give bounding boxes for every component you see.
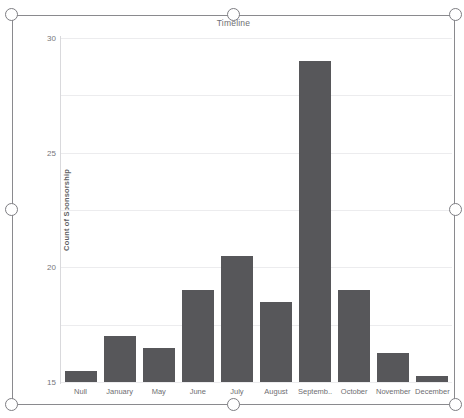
bar-series: NullJanuaryMayJuneJulyAugustSeptemb..Oct…: [61, 38, 452, 382]
x-tick-label: October: [341, 387, 368, 396]
x-tick-label: Null: [74, 387, 87, 396]
bar-slot: Null: [61, 38, 100, 382]
bar[interactable]: [221, 256, 253, 382]
bar[interactable]: [104, 336, 136, 382]
handle-top-right[interactable]: [449, 8, 462, 21]
handle-middle-left[interactable]: [5, 203, 18, 216]
y-tick-label-30: 30: [47, 34, 56, 43]
x-tick-label: July: [230, 387, 243, 396]
bar[interactable]: [338, 290, 370, 382]
bar-slot: June: [178, 38, 217, 382]
x-tick-label: June: [190, 387, 206, 396]
y-tick-label-20: 20: [47, 263, 56, 272]
bar-slot: November: [374, 38, 413, 382]
x-tick-label: Septemb..: [298, 387, 332, 396]
y-tick-label-15: 15: [47, 378, 56, 387]
bar[interactable]: [143, 348, 175, 382]
bar[interactable]: [416, 376, 448, 382]
bar-slot: Septemb..: [296, 38, 335, 382]
y-tick-label-25: 25: [47, 148, 56, 157]
bar[interactable]: [65, 371, 97, 382]
bar-slot: December: [413, 38, 452, 382]
handle-middle-right[interactable]: [449, 203, 462, 216]
plot-area: 051015202530 NullJanuaryMayJuneJulyAugus…: [61, 38, 452, 382]
chart-object[interactable]: Timeline Count of Sponsorship 0510152025…: [14, 17, 453, 403]
x-tick-label: January: [106, 387, 133, 396]
bar-slot: July: [217, 38, 256, 382]
handle-top-center[interactable]: [227, 8, 240, 21]
bar[interactable]: [182, 290, 214, 382]
handle-bottom-right[interactable]: [449, 398, 462, 411]
bar[interactable]: [299, 61, 331, 382]
handle-bottom-center[interactable]: [227, 398, 240, 411]
x-tick-label: December: [415, 387, 450, 396]
bar[interactable]: [377, 353, 409, 382]
bar-slot: August: [256, 38, 295, 382]
x-tick-label: November: [376, 387, 411, 396]
bar-slot: October: [335, 38, 374, 382]
bar-slot: May: [139, 38, 178, 382]
handle-bottom-left[interactable]: [5, 398, 18, 411]
handle-top-left[interactable]: [5, 8, 18, 21]
x-tick-label: May: [152, 387, 166, 396]
bar-slot: January: [100, 38, 139, 382]
x-tick-label: August: [264, 387, 287, 396]
gridline-0: 0: [61, 382, 452, 383]
bar[interactable]: [260, 302, 292, 382]
chart-screenshot: Timeline Count of Sponsorship 0510152025…: [0, 0, 464, 418]
